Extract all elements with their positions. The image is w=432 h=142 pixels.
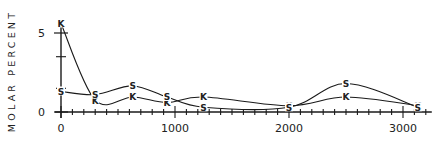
marker-k: K [129, 92, 137, 102]
marker-s: S [200, 103, 206, 113]
marker-s: S [343, 79, 349, 89]
marker-s: S [286, 103, 292, 113]
y-tick-label: 0 [38, 106, 45, 119]
x-tick-label: 0 [58, 122, 65, 135]
marker-k: K [200, 92, 208, 102]
x-tick-label: 2000 [275, 122, 303, 135]
marker-s: S [92, 90, 98, 100]
series-line-s [61, 84, 418, 110]
molar-percent-chart: MOLAR PERCENT 010002000300005KKKKKKKKSSS… [0, 0, 432, 142]
x-tick-label: 3000 [389, 122, 417, 135]
x-tick-label: 1000 [161, 122, 189, 135]
y-axis-label-text: MOLAR PERCENT [6, 10, 17, 132]
marker-s: S [58, 87, 64, 97]
marker-s: S [164, 92, 170, 102]
plot-area: 010002000300005KKKKKKKKSSSSSSSS [0, 0, 432, 142]
series-line-k [61, 24, 418, 106]
marker-s: S [415, 103, 421, 113]
marker-k: K [343, 92, 351, 102]
y-tick-label: 5 [38, 27, 45, 40]
marker-k: K [58, 19, 66, 29]
marker-s: S [130, 81, 136, 91]
y-axis-label: MOLAR PERCENT [2, 4, 20, 138]
